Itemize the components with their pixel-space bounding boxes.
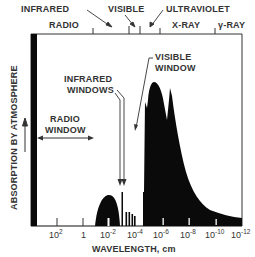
svg-text:VISIBLE: VISIBLE	[155, 52, 191, 62]
y-axis-label: ABSORPTION BY ATMOSPHERE	[9, 65, 19, 210]
band-label-gamma: γ-RAY	[218, 20, 245, 30]
svg-text:10-4: 10-4	[127, 228, 143, 240]
band-label-ultraviolet: ULTRAVIOLET	[166, 4, 230, 14]
band-label-infrared: INFRARED	[21, 4, 69, 14]
svg-text:10-2: 10-2	[100, 228, 116, 240]
svg-text:WINDOW: WINDOW	[155, 63, 196, 73]
svg-text:10-8: 10-8	[180, 228, 196, 240]
svg-text:WINDOW: WINDOW	[45, 125, 86, 135]
svg-text:WINDOWS: WINDOWS	[67, 85, 114, 95]
x-tick-labels: 102 1 10-2 10-4 10-6 10-8 10-10 10-12	[49, 228, 251, 240]
x-axis-label: WAVELENGTH, cm	[92, 244, 176, 254]
band-label-visible: VISIBLE	[108, 4, 144, 14]
band-label-radio: RADIO	[49, 20, 79, 30]
x-axis-ticks	[57, 218, 83, 226]
chart: INFRARED VISIBLE ULTRAVIOLET RADIO X-RAY…	[0, 0, 255, 257]
svg-text:INFRARED: INFRARED	[64, 74, 112, 84]
svg-text:10-12: 10-12	[231, 228, 251, 240]
svg-text:102: 102	[49, 228, 63, 240]
svg-text:1: 1	[81, 230, 86, 240]
y-axis-up-arrow-icon	[23, 118, 28, 152]
band-label-xray: X-RAY	[172, 20, 200, 30]
svg-text:10-10: 10-10	[205, 228, 225, 240]
svg-text:RADIO: RADIO	[50, 114, 80, 124]
svg-text:10-6: 10-6	[153, 228, 169, 240]
radio-window-annotation: RADIO WINDOW	[37, 114, 94, 141]
